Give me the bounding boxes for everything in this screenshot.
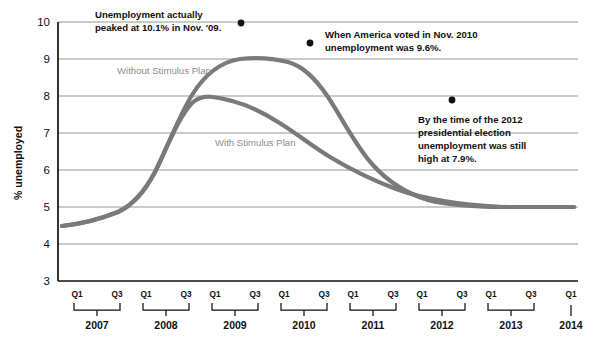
x-tick-2010-q3: Q3 bbox=[318, 289, 329, 299]
x-year-2012: 2012 bbox=[430, 319, 454, 331]
x-bracket-2012 bbox=[419, 303, 465, 316]
x-bracket-2007 bbox=[74, 303, 120, 316]
x-group-2010: Q1 Q3 2010 bbox=[278, 289, 329, 331]
unemployment-chart: % unemployed 10 9 8 7 6 5 4 3 bbox=[0, 0, 589, 343]
y-axis-title-text: % unemployed bbox=[12, 126, 24, 200]
y-axis-title: % unemployed bbox=[12, 126, 24, 200]
x-tick-2014-q1: Q1 bbox=[565, 289, 576, 299]
annotation-peak-2009-line-2: peaked at 10.1% in Nov. '09. bbox=[95, 22, 221, 33]
annotation-dot-election-2010 bbox=[307, 40, 314, 47]
annotation-election-2012-line-3: unemployment was still bbox=[418, 140, 526, 151]
annotation-election-2012: By the time of the 2012 presidential ele… bbox=[418, 97, 526, 164]
y-tick-3: 3 bbox=[44, 275, 50, 287]
annotation-election-2010-line-1: When America voted in Nov. 2010 bbox=[325, 29, 477, 40]
x-bracket-2013 bbox=[488, 303, 534, 316]
series-label-with-stimulus: With Stimulus Plan bbox=[215, 137, 296, 148]
x-year-2009: 2009 bbox=[223, 319, 247, 331]
annotation-election-2012-line-1: By the time of the 2012 bbox=[418, 114, 523, 125]
y-tick-8: 8 bbox=[44, 90, 50, 102]
x-tick-2009-q3: Q3 bbox=[249, 289, 260, 299]
series-label-without-stimulus: Without Stimulus Plan bbox=[117, 65, 211, 76]
x-group-2011: Q1 Q3 2011 bbox=[347, 289, 398, 331]
x-year-2014: 2014 bbox=[559, 319, 583, 331]
x-group-2013: Q1 Q3 2013 bbox=[485, 289, 536, 331]
x-bracket-2009 bbox=[212, 303, 258, 316]
x-tick-2007-q3: Q3 bbox=[111, 289, 122, 299]
annotation-dot-peak-2009 bbox=[238, 20, 245, 27]
x-tick-2013-q1: Q1 bbox=[485, 289, 496, 299]
x-tick-2012-q1: Q1 bbox=[416, 289, 427, 299]
annotation-election-2010-line-2: unemployment was 9.6%. bbox=[325, 42, 441, 53]
x-year-2013: 2013 bbox=[499, 319, 523, 331]
x-year-2007: 2007 bbox=[85, 319, 109, 331]
annotation-election-2010: When America voted in Nov. 2010 unemploy… bbox=[307, 29, 478, 53]
x-group-2012: Q1 Q3 2012 bbox=[416, 289, 467, 331]
x-tick-2011-q1: Q1 bbox=[347, 289, 358, 299]
y-tick-10: 10 bbox=[37, 16, 50, 28]
x-tick-2012-q3: Q3 bbox=[456, 289, 467, 299]
x-year-2008: 2008 bbox=[154, 319, 178, 331]
x-group-2008: Q1 Q3 2008 bbox=[140, 289, 191, 331]
x-bracket-2008 bbox=[143, 303, 189, 316]
x-tick-2007-q1: Q1 bbox=[71, 289, 82, 299]
annotation-peak-2009: Unemployment actually peaked at 10.1% in… bbox=[95, 9, 244, 33]
x-tick-2013-q3: Q3 bbox=[525, 289, 536, 299]
x-tick-2009-q1: Q1 bbox=[209, 289, 220, 299]
annotation-election-2012-line-2: presidential election bbox=[418, 127, 511, 138]
x-bracket-2010 bbox=[281, 303, 327, 316]
chart-svg: % unemployed 10 9 8 7 6 5 4 3 bbox=[0, 0, 589, 343]
annotation-election-2012-line-4: high at 7.9%. bbox=[418, 153, 477, 164]
y-tick-4: 4 bbox=[44, 238, 51, 250]
y-axis-ticks: 10 9 8 7 6 5 4 3 bbox=[37, 16, 50, 287]
x-tick-2011-q3: Q3 bbox=[387, 289, 398, 299]
x-tick-2008-q3: Q3 bbox=[180, 289, 191, 299]
y-tick-7: 7 bbox=[44, 127, 50, 139]
annotation-dot-election-2012 bbox=[449, 97, 456, 104]
x-tick-2008-q1: Q1 bbox=[140, 289, 151, 299]
x-group-2009: Q1 Q3 2009 bbox=[209, 289, 260, 331]
x-axis-groups: Q1 Q3 2007 Q1 Q3 2008 Q1 Q3 2009 Q1 bbox=[71, 289, 582, 331]
x-tick-2010-q1: Q1 bbox=[278, 289, 289, 299]
x-year-2011: 2011 bbox=[362, 319, 385, 331]
x-year-2010: 2010 bbox=[292, 319, 316, 331]
y-tick-5: 5 bbox=[44, 201, 50, 213]
annotation-peak-2009-line-1: Unemployment actually bbox=[95, 9, 203, 20]
x-group-2014: Q1 2014 bbox=[559, 289, 583, 331]
x-bracket-2011 bbox=[350, 303, 396, 316]
y-tick-6: 6 bbox=[44, 164, 50, 176]
y-tick-9: 9 bbox=[44, 53, 50, 65]
x-group-2007: Q1 Q3 2007 bbox=[71, 289, 122, 331]
